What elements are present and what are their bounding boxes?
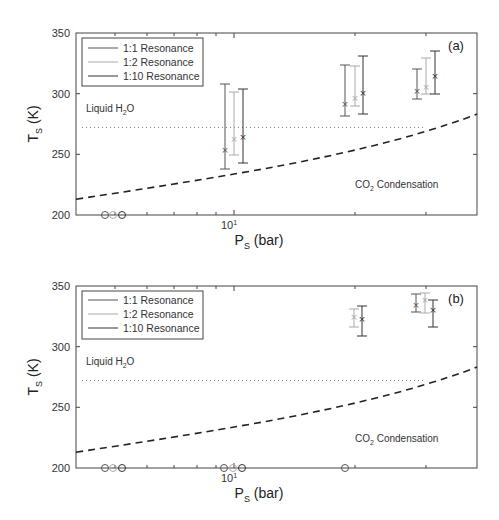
x-axis-title-b: PS (bar) — [235, 485, 284, 504]
x-marker-icon: × — [359, 88, 367, 98]
x-marker-icon: × — [413, 86, 421, 96]
errorbar-1to10-g1-a — [238, 89, 248, 163]
errorbar-1to1-g1-a — [220, 84, 230, 169]
x-marker-icon: × — [412, 300, 420, 310]
errorbars-a — [220, 51, 440, 169]
y-tick-200-b: 200 — [52, 462, 70, 474]
co2-condensation-label-b: CO2 Condensation — [355, 433, 438, 446]
x-marker-icon: × — [422, 82, 430, 92]
x-marker-icon: × — [431, 71, 439, 81]
y-ticks-b — [76, 347, 477, 408]
legend-label-1to1: 1:1 Resonance — [123, 42, 194, 54]
y-axis-title-a: TS (K) — [25, 105, 44, 142]
y-tick-300-a: 300 — [52, 88, 70, 100]
x-axis-title-a: PS (bar) — [235, 232, 284, 251]
legend-label-1to2: 1:2 Resonance — [123, 308, 194, 320]
x-marker-icon: × — [221, 145, 229, 155]
errorbar-1to2-g1-a — [229, 92, 239, 155]
x-marker-icon: × — [351, 93, 359, 103]
y-tick-200-a: 200 — [52, 209, 70, 221]
markers-b: × × × × × — [350, 295, 437, 324]
x-marker-icon: × — [341, 99, 349, 109]
y-ticks-a — [76, 94, 477, 155]
panel-b: 200 250 300 350 101 PS (bar) TS (K) Liqu… — [25, 280, 477, 504]
panel-a: 200 250 300 350 101 PS (bar) TS (K) Liqu… — [25, 27, 477, 251]
legend-b: 1:1 Resonance 1:2 Resonance 1:10 Resonan… — [82, 291, 203, 339]
y-tick-300-b: 300 — [52, 341, 70, 353]
legend-label-1to1: 1:1 Resonance — [123, 294, 194, 306]
co2-condensation-label-a: CO2 Condensation — [355, 179, 438, 192]
y-tick-250-b: 250 — [52, 401, 70, 413]
y-tick-250-a: 250 — [52, 148, 70, 160]
liquid-h2o-label-b: Liquid H2O — [86, 356, 135, 369]
legend-label-1to10: 1:10 Resonance — [123, 70, 200, 82]
liquid-h2o-label-a: Liquid H2O — [86, 103, 135, 116]
x-marker-icon: × — [350, 312, 358, 322]
x-marker-icon: × — [239, 132, 247, 142]
x-marker-icon: × — [429, 305, 437, 315]
y-tick-350-a: 350 — [52, 27, 70, 39]
figure: 200 250 300 350 101 PS (bar) TS (K) Liqu… — [0, 0, 499, 520]
panel-label-b: (b) — [448, 291, 464, 306]
y-tick-350-b: 350 — [52, 280, 70, 292]
x-tick-10-b: 101 — [221, 472, 237, 484]
x-marker-icon: × — [230, 134, 238, 144]
panel-label-a: (a) — [448, 38, 464, 53]
markers-a: × × × × × × × × × — [221, 71, 439, 155]
x-tick-10-a: 101 — [221, 219, 237, 231]
legend-label-1to2: 1:2 Resonance — [123, 56, 194, 68]
errorbar-1to10-g2-a — [358, 56, 368, 114]
x-marker-icon: × — [358, 314, 366, 324]
legend-label-1to10: 1:10 Resonance — [123, 322, 200, 334]
x-marker-icon: × — [421, 295, 429, 305]
legend-a: 1:1 Resonance 1:2 Resonance 1:10 Resonan… — [82, 38, 203, 86]
y-axis-title-b: TS (K) — [25, 358, 44, 395]
